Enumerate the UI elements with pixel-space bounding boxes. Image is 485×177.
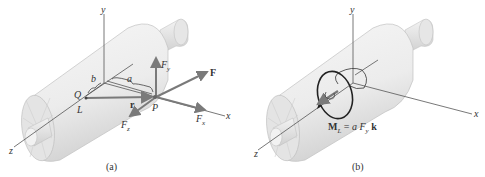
r-vector <box>86 97 152 98</box>
x-axis-label: x <box>225 110 231 121</box>
f-label: F <box>210 67 216 78</box>
figure-canvas: y x z Q P L b a r F Fy Fx Fz (a) <box>0 0 485 177</box>
fz-label: Fz <box>120 119 130 133</box>
point-q <box>85 97 88 100</box>
fx-vector <box>156 97 205 110</box>
dim-b-label: b <box>91 73 96 84</box>
y-axis-label: y <box>100 4 106 15</box>
dim-a-label: a <box>127 73 132 84</box>
panel-a: y x z Q P L b a r F Fy Fx Fz (a) <box>8 4 231 173</box>
fx-label: Fx <box>195 113 206 127</box>
z-axis-label: z <box>8 145 13 156</box>
line-l-label: L <box>76 104 83 115</box>
panel-b: y x z ML = a Fy k (b) <box>253 4 479 173</box>
point-p-label: P <box>151 102 158 113</box>
caption-b: (b) <box>352 161 364 173</box>
r-label: r <box>130 99 135 110</box>
z-axis-label-b: z <box>253 148 258 159</box>
point-p <box>153 95 157 99</box>
caption-a: (a) <box>106 161 117 173</box>
y-axis-label-b: y <box>349 4 355 15</box>
x-axis-label-b: x <box>473 108 479 119</box>
point-q-label: Q <box>74 89 82 100</box>
